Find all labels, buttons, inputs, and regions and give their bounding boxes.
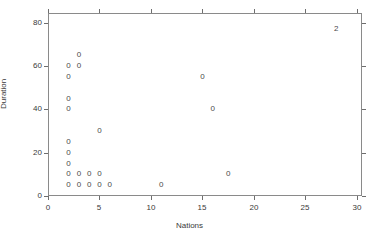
x-axis-tick-top (99, 9, 100, 13)
x-axis-tick-label: 25 (301, 204, 310, 212)
data-point: 0 (210, 105, 214, 113)
data-point: 0 (66, 181, 70, 189)
data-point: 0 (97, 181, 101, 189)
x-axis-title: Nations (0, 222, 379, 230)
data-point: 0 (200, 73, 204, 81)
data-point: 0 (97, 127, 101, 135)
x-axis-tick (254, 196, 255, 200)
y-axis-title: Duration (0, 79, 8, 109)
y-axis-tick-label: 40 (22, 105, 42, 113)
y-axis-tick-right (362, 23, 366, 24)
y-axis-tick (44, 109, 48, 110)
x-axis-tick-top (151, 9, 152, 13)
data-point: 0 (226, 170, 230, 178)
x-axis-tick (99, 196, 100, 200)
data-point: 0 (66, 105, 70, 113)
y-axis-tick-label: 20 (22, 149, 42, 157)
data-point: 0 (159, 181, 163, 189)
data-point: 0 (77, 62, 81, 70)
data-point: 0 (66, 62, 70, 70)
x-axis-tick-label: 20 (250, 204, 259, 212)
x-axis-tick (151, 196, 152, 200)
y-axis-tick-right (362, 153, 366, 154)
data-point: 0 (66, 73, 70, 81)
data-point: 0 (87, 170, 91, 178)
data-point: 0 (77, 181, 81, 189)
x-axis-tick-top (357, 9, 358, 13)
plot-area-frame (48, 13, 362, 196)
y-axis-tick (44, 66, 48, 67)
data-point: 2 (334, 25, 338, 33)
scatter-chart-figure: 051015202530020406080 000000000000000000… (0, 0, 379, 242)
data-point: 0 (97, 170, 101, 178)
y-axis-tick-right (362, 109, 366, 110)
x-axis-tick-top (48, 9, 49, 13)
y-axis-tick (44, 153, 48, 154)
y-axis-tick (44, 196, 48, 197)
data-point: 0 (66, 170, 70, 178)
data-point: 0 (66, 160, 70, 168)
data-point: 0 (87, 181, 91, 189)
x-axis-tick-label: 5 (97, 204, 101, 212)
data-point: 0 (66, 95, 70, 103)
y-axis-tick-label: 60 (22, 62, 42, 70)
x-axis-tick-label: 0 (46, 204, 50, 212)
x-axis-tick (357, 196, 358, 200)
x-axis-tick-label: 30 (353, 204, 362, 212)
x-axis-tick (305, 196, 306, 200)
x-axis-tick-top (254, 9, 255, 13)
data-point: 0 (108, 181, 112, 189)
x-axis-tick-top (305, 9, 306, 13)
data-point: 0 (66, 138, 70, 146)
x-axis-tick-label: 10 (147, 204, 156, 212)
y-axis-tick-right (362, 196, 366, 197)
data-point: 0 (77, 170, 81, 178)
data-point: 0 (77, 51, 81, 59)
x-axis-tick (202, 196, 203, 200)
y-axis-tick-right (362, 66, 366, 67)
y-axis-tick-label: 0 (22, 192, 42, 200)
x-axis-tick-top (202, 9, 203, 13)
y-axis-tick-label: 80 (22, 19, 42, 27)
y-axis-tick (44, 23, 48, 24)
x-axis-tick (48, 196, 49, 200)
data-point: 0 (66, 149, 70, 157)
x-axis-tick-label: 15 (198, 204, 207, 212)
